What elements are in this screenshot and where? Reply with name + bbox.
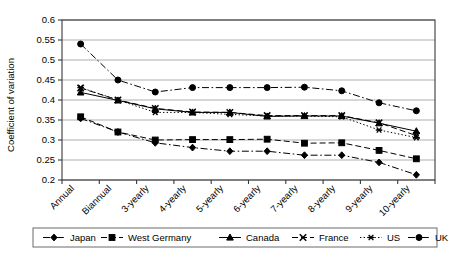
- datapoint-west-germany-5-yearly: [227, 137, 233, 143]
- y-tick-label: 0.5: [42, 54, 55, 65]
- y-tick-label: 0.3: [42, 134, 55, 145]
- datapoint-west-germany-3-yearly: [152, 137, 158, 143]
- datapoint-west-germany-9-yearly: [376, 148, 382, 154]
- legend-label-canada: Canada: [246, 232, 280, 243]
- datapoint-west-germany-7-yearly: [302, 140, 308, 146]
- y-tick-label: 0.25: [37, 154, 56, 165]
- datapoint-uk-7-yearly: [301, 84, 307, 90]
- datapoint-uk-4-yearly: [190, 85, 196, 91]
- datapoint-uk-annual: [78, 41, 84, 47]
- datapoint-uk-8-yearly: [339, 88, 345, 94]
- coefficient-of-variation-line-chart: 0.60.550.50.450.40.350.30.250.2 AnnualBi…: [0, 0, 449, 258]
- datapoint-uk-10-yearly: [413, 108, 419, 114]
- datapoint-uk-6-yearly: [264, 85, 270, 91]
- y-axis-title: Coefficient of variation: [5, 58, 16, 152]
- y-tick-label: 0.35: [37, 114, 56, 125]
- legend-marker-square-icon: [109, 235, 115, 241]
- datapoint-uk-5-yearly: [227, 85, 233, 91]
- y-tick-label: 0.55: [37, 34, 56, 45]
- datapoint-uk-9-yearly: [376, 100, 382, 106]
- datapoint-west-germany-6-yearly: [264, 136, 270, 142]
- legend-label-us: US: [387, 232, 400, 243]
- chart-container: 0.60.550.50.450.40.350.30.250.2 AnnualBi…: [0, 0, 449, 258]
- datapoint-west-germany-4-yearly: [190, 137, 196, 143]
- datapoint-uk-3-yearly: [152, 89, 158, 95]
- y-tick-label: 0.45: [37, 74, 56, 85]
- legend-label-france: France: [319, 232, 349, 243]
- datapoint-west-germany-biannual: [115, 129, 121, 135]
- legend-label-uk: UK: [435, 232, 449, 243]
- legend-label-west-germany: West Germany: [128, 232, 191, 243]
- datapoint-west-germany-10-yearly: [413, 156, 419, 162]
- legend-label-japan: Japan: [70, 232, 96, 243]
- y-tick-label: 0.6: [42, 14, 55, 25]
- y-tick-label: 0.4: [42, 94, 55, 105]
- datapoint-west-germany-annual: [78, 114, 84, 120]
- datapoint-uk-biannual: [115, 77, 121, 83]
- legend-marker-circle-icon: [416, 235, 422, 241]
- chart-background: [0, 0, 449, 258]
- datapoint-west-germany-8-yearly: [339, 140, 345, 146]
- y-tick-label: 0.2: [42, 174, 55, 185]
